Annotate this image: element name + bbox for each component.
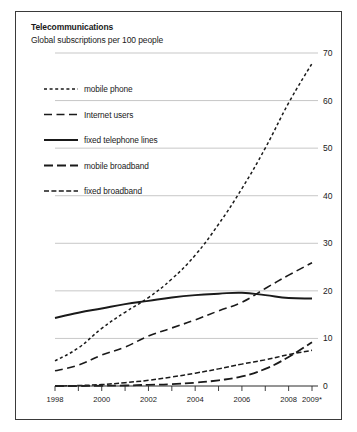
y-tick-label: 0 <box>323 381 328 391</box>
y-tick-label: 70 <box>323 48 333 58</box>
gridlines-group <box>55 53 318 386</box>
y-tick-label: 10 <box>323 333 333 343</box>
axis-group <box>55 386 312 391</box>
x-tick-label: 2000 <box>93 395 110 404</box>
series-line-mobile-broadband <box>55 342 312 386</box>
legend-label-mobile-broadband: mobile broadband <box>84 161 149 171</box>
x-axis-labels: 1998200020022004200620082009* <box>47 395 322 404</box>
y-tick-label: 30 <box>323 238 333 248</box>
x-tick-label: 1998 <box>47 395 64 404</box>
x-tick-label: 2008 <box>280 395 297 404</box>
y-axis-labels: 010203040506070 <box>323 48 333 391</box>
y-tick-label: 20 <box>323 286 333 296</box>
legend-label-fixed-broadband: fixed broadband <box>84 186 142 196</box>
y-tick-label: 50 <box>323 143 333 153</box>
series-line-internet-users <box>55 263 312 371</box>
series-line-mobile-phone <box>55 63 312 360</box>
x-tick-label: 2009* <box>302 395 322 404</box>
legend-label-mobile-phone: mobile phone <box>84 84 133 94</box>
x-tick-label: 2002 <box>140 395 157 404</box>
series-line-fixed-telephone-lines <box>55 293 312 318</box>
chart-card: Telecommunications Global subscriptions … <box>15 11 342 420</box>
y-tick-label: 40 <box>323 191 333 201</box>
legend-label-fixed-telephone-lines: fixed telephone lines <box>84 135 158 145</box>
legend-label-internet-users: Internet users <box>84 110 133 120</box>
series-line-fixed-broadband <box>55 350 312 386</box>
y-tick-label: 60 <box>323 96 333 106</box>
x-tick-label: 2006 <box>233 395 250 404</box>
line-chart-plot: 010203040506070 199820002002200420062008… <box>16 12 342 420</box>
x-tick-label: 2004 <box>187 395 204 404</box>
